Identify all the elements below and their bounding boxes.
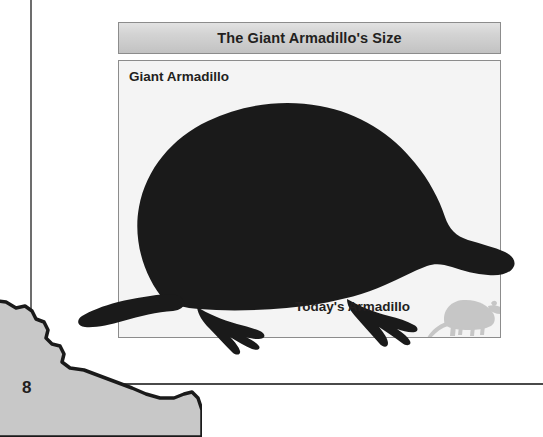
giant-armadillo-silhouette xyxy=(47,21,517,341)
figure-panel: Giant Armadillo Today's Armadillo xyxy=(118,60,501,338)
figure-giant-armadillo-size: The Giant Armadillo's Size Giant Armadil… xyxy=(118,22,501,338)
label-giant-armadillo: Giant Armadillo xyxy=(129,69,229,84)
vertical-margin-rule xyxy=(30,0,32,320)
page-number: 8 xyxy=(22,378,31,398)
label-todays-armadillo: Today's Armadillo xyxy=(295,299,410,314)
